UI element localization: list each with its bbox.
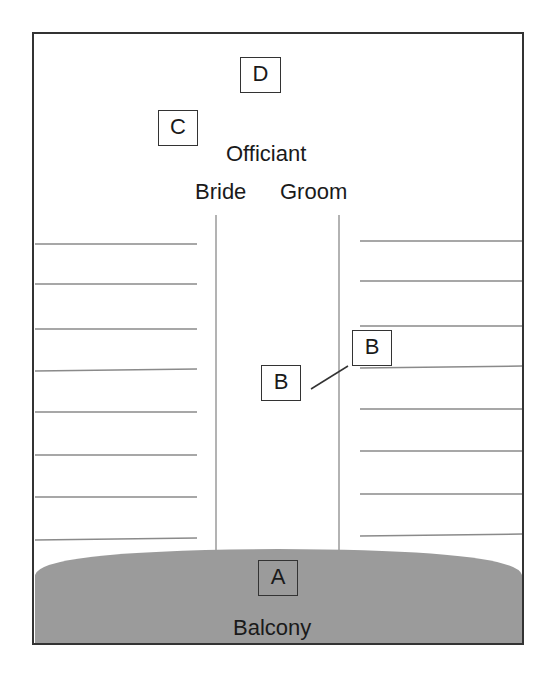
right-pews — [360, 241, 522, 536]
left-pews — [35, 244, 197, 540]
marker-b-pew: B — [352, 330, 392, 366]
groom-label: Groom — [280, 180, 347, 204]
officiant-label: Officiant — [226, 142, 306, 166]
seating-diagram: Officiant Bride Groom Balcony D C B B A — [0, 0, 549, 673]
pew-row — [35, 538, 197, 540]
bride-label: Bride — [195, 180, 246, 204]
marker-a: A — [258, 560, 298, 596]
balcony-label: Balcony — [233, 616, 311, 640]
marker-c: C — [158, 110, 198, 146]
pew-row — [35, 369, 197, 371]
pew-row — [360, 534, 522, 536]
pew-row — [360, 366, 522, 368]
marker-d: D — [240, 57, 281, 93]
marker-b-aisle: B — [261, 365, 301, 401]
b-connector-line — [311, 366, 348, 389]
